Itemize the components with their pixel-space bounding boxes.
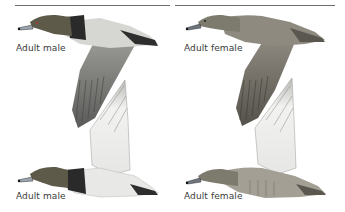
duck-illustrations <box>0 0 345 212</box>
adult-male-wing-down-illustration <box>18 15 158 128</box>
label-top-right: Adult female <box>184 43 243 53</box>
label-bottom-left: Adult male <box>16 191 66 201</box>
label-top-left: Adult male <box>16 43 66 53</box>
adult-female-wing-down-illustration <box>186 15 325 126</box>
label-bottom-right: Adult female <box>184 191 243 201</box>
